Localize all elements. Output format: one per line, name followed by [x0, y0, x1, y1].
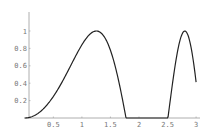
x-tick-label: 2.5 [161, 121, 174, 129]
y-ticks: 0.20.40.60.81 [14, 28, 30, 106]
plot: 0.511.522.53 0.20.40.60.81 [0, 0, 216, 136]
y-tick-label: 0.8 [14, 45, 27, 53]
y-tick-label: 0.6 [14, 62, 27, 70]
x-tick-label: 3 [194, 121, 198, 129]
y-tick-label: 1 [23, 28, 27, 36]
x-tick-label: 2 [137, 121, 141, 129]
data-curve [25, 31, 196, 118]
y-tick-label: 0.2 [14, 97, 27, 105]
x-tick-label: 1 [80, 121, 84, 129]
x-tick-label: 0.5 [47, 121, 60, 129]
x-tick-label: 1.5 [104, 121, 117, 129]
y-tick-label: 0.4 [14, 80, 27, 88]
